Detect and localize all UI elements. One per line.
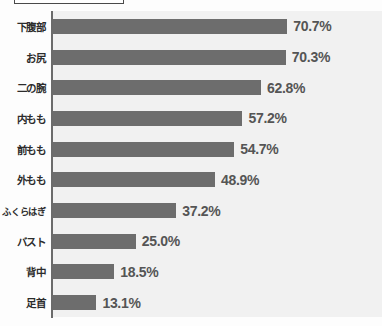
bar-row: お尻70.3% — [0, 42, 382, 73]
bar-value-label: 62.8% — [267, 80, 305, 96]
bar-and-value: 70.3% — [53, 42, 330, 73]
title-box-cutoff — [14, 0, 124, 4]
bar-and-value: 25.0% — [53, 226, 180, 257]
category-label: ふくらはぎ — [0, 204, 46, 218]
bar-value-label: 54.7% — [240, 141, 278, 157]
bar — [53, 19, 287, 34]
bar-and-value: 57.2% — [53, 103, 287, 134]
bar-value-label: 48.9% — [221, 172, 259, 188]
bar-and-value: 62.8% — [53, 72, 305, 103]
category-label: 二の腕 — [0, 80, 46, 95]
bar-value-label: 70.7% — [293, 18, 331, 34]
bar-value-label: 70.3% — [292, 49, 330, 65]
bar-row: 前もも54.7% — [0, 134, 382, 165]
category-label: 足首 — [0, 295, 46, 310]
category-label: お尻 — [0, 50, 46, 65]
category-label: 背中 — [0, 264, 46, 279]
bar-row: 内もも57.2% — [0, 103, 382, 134]
bar-and-value: 37.2% — [53, 195, 220, 226]
bar-row: 背中18.5% — [0, 257, 382, 288]
bar-row: バスト25.0% — [0, 226, 382, 257]
bar-row: 足首13.1% — [0, 287, 382, 318]
category-label: 前もも — [0, 142, 46, 157]
bar-row: 二の腕62.8% — [0, 72, 382, 103]
bar-value-label: 57.2% — [248, 110, 286, 126]
bar-rows: 下腹部70.7%お尻70.3%二の腕62.8%内もも57.2%前もも54.7%外… — [0, 11, 382, 318]
bar — [53, 264, 114, 279]
bar-row: ふくらはぎ37.2% — [0, 195, 382, 226]
category-label: バスト — [0, 234, 46, 249]
bar — [53, 295, 96, 310]
bar-value-label: 13.1% — [102, 295, 140, 311]
bar — [53, 80, 261, 95]
bar — [53, 142, 234, 157]
bar — [53, 50, 286, 65]
bar-row: 外もも48.9% — [0, 165, 382, 196]
category-label: 下腹部 — [0, 19, 46, 34]
bar — [53, 111, 242, 126]
bar-value-label: 37.2% — [182, 203, 220, 219]
bar-and-value: 13.1% — [53, 287, 141, 318]
bar-row: 下腹部70.7% — [0, 11, 382, 42]
bar-and-value: 48.9% — [53, 165, 259, 196]
category-label: 内もも — [0, 111, 46, 126]
chart-page: 下腹部70.7%お尻70.3%二の腕62.8%内もも57.2%前もも54.7%外… — [0, 0, 382, 326]
bar — [53, 234, 136, 249]
category-label: 外もも — [0, 172, 46, 187]
bar-value-label: 25.0% — [142, 233, 180, 249]
bar-and-value: 18.5% — [53, 257, 158, 288]
bar-value-label: 18.5% — [120, 264, 158, 280]
bar-and-value: 70.7% — [53, 11, 331, 42]
bar — [53, 203, 176, 218]
bar — [53, 172, 215, 187]
bar-and-value: 54.7% — [53, 134, 278, 165]
